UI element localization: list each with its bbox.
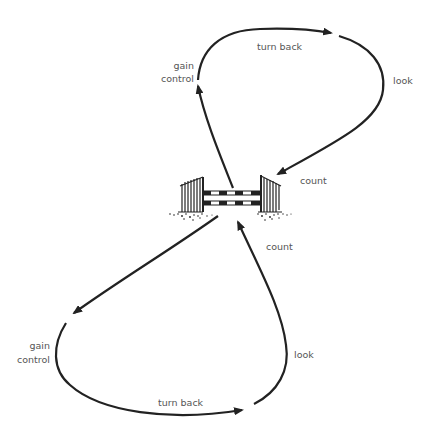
jump-poles	[203, 191, 261, 205]
left-wing	[178, 177, 203, 212]
label-top-turn-back: turn back	[257, 41, 302, 53]
right-wing	[258, 175, 282, 212]
bottom-loop-path	[56, 216, 287, 415]
label-top-look: look	[393, 75, 413, 87]
label-top-gain: gain	[152, 60, 194, 72]
ground-stipple	[169, 213, 291, 221]
label-bottom-control: control	[8, 354, 50, 366]
path-jump-to-top-gain-control	[198, 86, 233, 188]
path-jump-to-bottom-gain-control	[74, 216, 218, 313]
label-bottom-count: count	[266, 241, 293, 253]
figure-eight-diagram: turn back look gain control count count …	[0, 0, 431, 445]
label-bottom-look: look	[294, 349, 314, 361]
path-top-gain-to-turnback	[198, 29, 331, 80]
label-bottom-gain: gain	[8, 340, 50, 352]
diagram-paths	[0, 0, 431, 445]
label-top-count: count	[300, 175, 327, 187]
path-top-look-to-count	[278, 36, 383, 174]
path-bottom-gain-to-turnback	[56, 323, 242, 415]
label-bottom-turn-back: turn back	[158, 397, 203, 409]
label-top-control: control	[152, 73, 194, 85]
